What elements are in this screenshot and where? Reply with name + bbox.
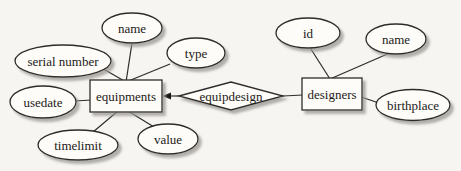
label-equip-serial-number: serial number xyxy=(27,54,99,69)
label-entity-equipments: equipments xyxy=(96,89,156,104)
label-equip-timelimit: timelimit xyxy=(54,138,102,153)
label-relationship-equipdesign: equipdesign xyxy=(200,89,263,104)
er-diagram-canvas: name type serial number usedate timelimi… xyxy=(0,0,461,171)
edge-equipments-timelimit xyxy=(93,111,118,132)
label-designer-birthplace: birthplace xyxy=(387,98,439,113)
label-equip-usedate: usedate xyxy=(24,95,63,110)
edge-equipments-value xyxy=(128,111,154,127)
label-designer-id: id xyxy=(303,26,314,41)
label-designer-name: name xyxy=(382,32,410,47)
label-equip-value: value xyxy=(154,132,182,147)
edge-designers-id xyxy=(309,46,330,79)
edge-equipments-usedate xyxy=(74,100,92,101)
edge-designers-name xyxy=(330,52,392,79)
edge-equipdesign-designers xyxy=(283,95,303,96)
label-entity-designers: designers xyxy=(307,87,356,102)
label-equip-name: name xyxy=(118,21,146,36)
edge-equipments-name xyxy=(126,43,132,82)
edge-equipments-type xyxy=(126,64,170,82)
arrowhead-to-equipments-icon xyxy=(163,93,172,100)
label-equip-type: type xyxy=(185,46,208,61)
er-diagram-svg: name type serial number usedate timelimi… xyxy=(0,0,461,171)
